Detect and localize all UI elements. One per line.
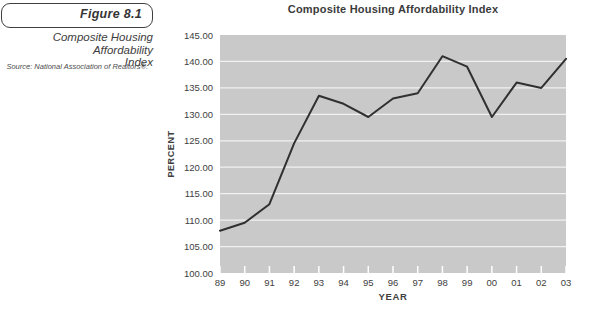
y-axis-tick-label: 115.00 xyxy=(185,188,213,199)
x-axis-tick-label: 02 xyxy=(536,277,547,288)
x-axis-tick-label: 98 xyxy=(437,277,448,288)
y-axis-tick-label: 110.00 xyxy=(185,215,213,226)
y-axis-tick-label: 125.00 xyxy=(184,135,213,146)
x-axis-tick-label: 91 xyxy=(264,277,275,288)
y-axis-tick-label: 145.00 xyxy=(184,30,213,41)
y-axis-tick-label: 130.00 xyxy=(184,109,213,120)
x-axis-tick-label: 95 xyxy=(363,277,374,288)
x-axis-tick-label: 93 xyxy=(314,277,325,288)
x-axis-tick-label: 90 xyxy=(239,277,250,288)
x-axis-tick-label: 01 xyxy=(511,277,522,288)
x-axis-tick-label: 99 xyxy=(462,277,473,288)
figure-page: Figure 8.1 Composite Housing Affordabili… xyxy=(0,0,590,318)
x-axis-tick-label: 94 xyxy=(338,277,349,288)
y-axis-tick-label: 140.00 xyxy=(184,56,213,67)
y-axis-tick-label: 135.00 xyxy=(184,82,213,93)
x-axis-tick-label: 89 xyxy=(215,277,226,288)
y-axis-tick-label: 105.00 xyxy=(184,241,213,252)
plot-background xyxy=(220,35,566,273)
x-axis-tick-label: 97 xyxy=(412,277,423,288)
y-axis-tick-label: 120.00 xyxy=(184,162,213,173)
x-axis-tick-label: 03 xyxy=(561,277,572,288)
x-axis-tick-label: 92 xyxy=(289,277,300,288)
plot-area: 145.00140.00135.00130.00125.00120.00115.… xyxy=(0,0,590,318)
x-axis-tick-label: 00 xyxy=(487,277,498,288)
y-axis-tick-label: 100.00 xyxy=(184,268,213,279)
x-axis-tick-label: 96 xyxy=(388,277,399,288)
